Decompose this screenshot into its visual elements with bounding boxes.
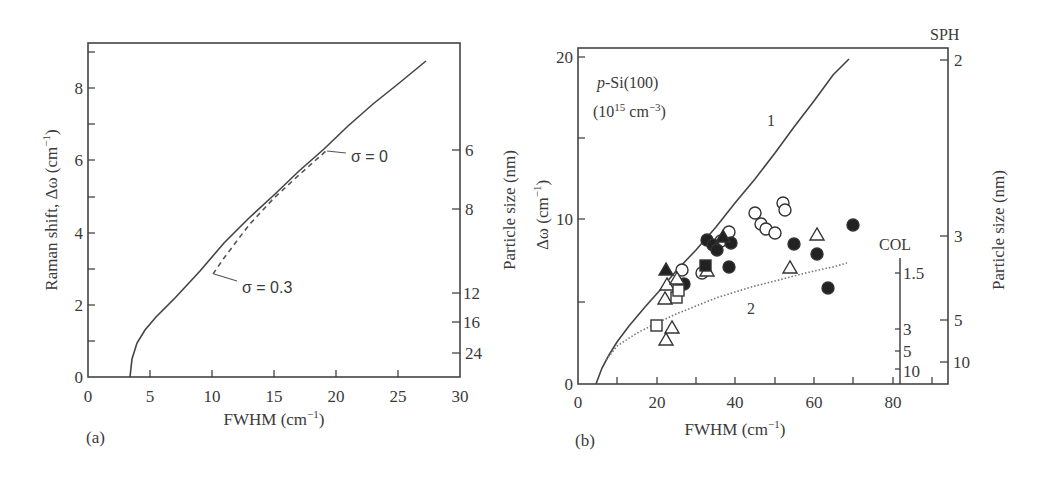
data-point-open-circle: [779, 204, 791, 216]
panel-a-sigma-0-label: σ = 0: [351, 148, 388, 165]
x-tick-label: 25: [390, 387, 407, 406]
panel-a-x-axis-title: FWHM (cm−1): [224, 408, 325, 429]
panel-b-y-ticks: [578, 57, 585, 302]
data-point-open-triangle: [810, 228, 824, 240]
panel-b-plot-frame: [578, 48, 948, 384]
panel-a: 0 5 10 15 20 25 30 0 2 4 6 8 6 8 12 16 2…: [40, 43, 519, 447]
data-point-filled-triangle: [659, 263, 673, 275]
x-tick-label: 40: [727, 393, 744, 412]
x-tick-label: 30: [452, 387, 469, 406]
panel-b-x-ticks: [617, 377, 932, 384]
col-tick-label: 3: [903, 320, 912, 339]
y-tick-label: 0: [75, 368, 84, 387]
y-tick-label: 4: [75, 224, 84, 243]
panel-b-sample-label: p-Si(100): [596, 74, 658, 92]
panel-b-sph-tick-labels: 2 3 5 10: [953, 51, 970, 372]
panel-b-y-tick-labels: 0 10 20: [556, 48, 573, 394]
panel-a-x-ticks: [150, 370, 398, 377]
sph-tick-label: 10: [953, 353, 970, 372]
panel-b: 0 20 40 60 80 0 10 20 SPH 2 3 5 10 COL 1…: [531, 26, 1008, 450]
y-tick-label: 20: [556, 48, 573, 67]
x-tick-label: 5: [146, 387, 155, 406]
panel-b-data-markers: [651, 197, 859, 345]
data-point-filled-circle: [788, 238, 800, 250]
data-point-open-triangle: [659, 333, 673, 345]
data-point-filled-circle: [822, 282, 834, 294]
panel-a-y-tick-labels: 0 2 4 6 8: [75, 79, 84, 387]
panel-a-plot-frame: [88, 43, 460, 377]
panel-a-y2-ticks: [452, 150, 460, 353]
x-tick-label: 80: [885, 393, 902, 412]
y2-tick-label: 6: [465, 141, 474, 160]
col-tick-label: 1.5: [903, 264, 924, 283]
y-tick-label: 0: [565, 375, 574, 394]
data-point-open-circle: [749, 207, 761, 219]
panel-b-col-tick-labels: 1.5 3 5 10: [903, 264, 924, 381]
data-point-open-square: [673, 285, 684, 296]
x-tick-label: 0: [574, 393, 583, 412]
panel-a-x-tick-labels: 0 5 10 15 20 25 30: [84, 387, 469, 406]
panel-b-sph-title: SPH: [930, 26, 960, 43]
y2-tick-label: 8: [465, 200, 474, 219]
panel-a-label: (a): [86, 428, 105, 447]
y-tick-label: 8: [75, 79, 84, 98]
col-tick-label: 10: [903, 362, 920, 381]
x-tick-label: 10: [204, 387, 221, 406]
figure: 0 5 10 15 20 25 30 0 2 4 6 8 6 8 12 16 2…: [0, 0, 1050, 480]
panel-a-y2-axis-title: Particle size (nm): [500, 150, 519, 270]
panel-b-curve-1-label: 1: [767, 112, 775, 129]
data-point-open-square: [651, 320, 662, 331]
sph-tick-label: 2: [954, 51, 963, 70]
x-tick-label: 60: [806, 393, 823, 412]
panel-a-curve-sigma-0.3: [213, 151, 326, 274]
y2-tick-label: 16: [463, 313, 480, 332]
x-tick-label: 0: [84, 387, 93, 406]
panel-a-y-ticks: [88, 52, 95, 341]
panel-b-x-axis-title: FWHM (cm−1): [685, 418, 786, 439]
panel-a-sigma-0-leader: [327, 151, 346, 153]
y-tick-label: 10: [556, 210, 573, 229]
col-tick-label: 5: [903, 342, 912, 361]
sph-tick-label: 5: [954, 311, 963, 330]
panel-b-col-title: COL: [879, 236, 911, 253]
panel-b-curve-2-label: 2: [747, 300, 755, 317]
panel-b-x-tick-labels: 0 20 40 60 80: [574, 393, 902, 412]
data-point-open-circle: [769, 227, 781, 239]
data-point-filled-circle: [847, 219, 859, 231]
panel-a-sigma-0.3-leader: [214, 274, 237, 281]
panel-a-curve-sigma-0: [130, 61, 426, 377]
panel-b-concentration-label: (1015 cm−3): [593, 101, 666, 121]
panel-b-label: (b): [575, 431, 595, 450]
panel-a-y-axis-title: Raman shift, Δω (cm−1): [40, 129, 61, 290]
data-point-filled-square: [700, 260, 711, 271]
panel-b-y2-axis-title: Particle size (nm): [989, 170, 1008, 290]
x-tick-label: 15: [266, 387, 283, 406]
panel-b-sph-ticks: [940, 60, 948, 362]
y-tick-label: 6: [75, 151, 84, 170]
data-point-filled-circle: [711, 244, 723, 256]
data-point-open-triangle: [658, 292, 672, 304]
sph-tick-label: 3: [954, 227, 963, 246]
y2-tick-label: 12: [463, 284, 480, 303]
y-tick-label: 2: [75, 296, 84, 315]
panel-a-y2-tick-labels: 6 8 12 16 24: [463, 141, 483, 363]
data-point-open-triangle: [783, 261, 797, 273]
panel-b-y-axis-title: Δω (cm−1): [531, 180, 552, 250]
x-tick-label: 20: [649, 393, 666, 412]
x-tick-label: 20: [328, 387, 345, 406]
data-point-filled-circle: [723, 261, 735, 273]
data-point-open-triangle: [665, 321, 679, 333]
panel-a-sigma-0.3-label: σ = 0.3: [242, 279, 292, 296]
y2-tick-label: 24: [465, 344, 483, 363]
data-point-filled-circle: [811, 248, 823, 260]
